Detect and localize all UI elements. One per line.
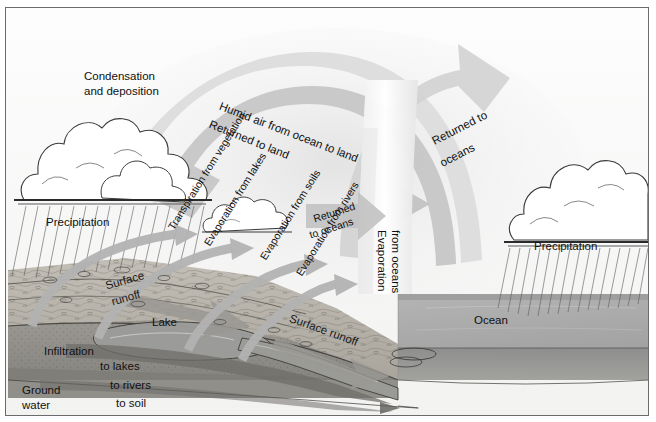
evaporation-from-oceans-column xyxy=(358,80,418,294)
condensation-label-line1: Condensation xyxy=(84,70,155,82)
infiltration-label: Infiltration xyxy=(44,345,94,357)
precipitation-right-label: Precipitation xyxy=(534,240,597,252)
ocean-label: Ocean xyxy=(474,314,508,326)
precipitation-left-label: Precipitation xyxy=(46,216,109,228)
evaporation-from-oceans-label-line1: Evaporation xyxy=(376,230,388,291)
to-rivers-label: to rivers xyxy=(110,379,151,391)
diagram-frame: Condensation and deposition Precipitatio… xyxy=(5,7,649,416)
to-lakes-label: to lakes xyxy=(100,360,140,372)
ground-water-label-line2: water xyxy=(22,399,50,411)
to-oceans-label: to oceans xyxy=(124,414,174,416)
ocean-block xyxy=(398,294,649,384)
evaporation-from-oceans-label-line2: from oceans xyxy=(390,230,402,293)
to-soil-label: to soil xyxy=(116,397,146,409)
water-cycle-diagram: Condensation and deposition Precipitatio… xyxy=(0,0,656,422)
ground-water-label-line1: Ground xyxy=(22,384,60,396)
condensation-label-line2: and deposition xyxy=(84,85,159,97)
lake-label: Lake xyxy=(152,316,177,328)
